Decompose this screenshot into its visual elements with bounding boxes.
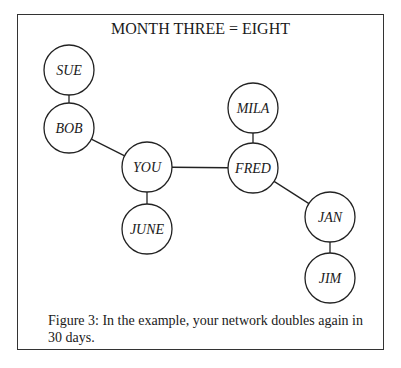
edge-bob-you xyxy=(91,139,124,156)
node-mila: MILA xyxy=(228,83,278,133)
node-label: YOU xyxy=(133,160,162,175)
edge-fred-jan xyxy=(274,181,309,203)
node-label: BOB xyxy=(55,121,83,136)
node-label: JAN xyxy=(318,210,343,225)
node-jim: JIM xyxy=(305,253,355,303)
node-label: JIM xyxy=(319,271,343,286)
node-jan: JAN xyxy=(305,192,355,242)
node-sue: SUE xyxy=(44,45,94,95)
node-label: SUE xyxy=(56,63,82,78)
node-label: JUNE xyxy=(130,222,165,237)
node-fred: FRED xyxy=(228,143,278,193)
edge-you-fred xyxy=(172,167,228,168)
figure-caption: Figure 3: In the example, your network d… xyxy=(48,312,368,346)
node-bob: BOB xyxy=(44,103,94,153)
node-label: FRED xyxy=(234,161,271,176)
nodes: SUEBOBYOUJUNEMILAFREDJANJIM xyxy=(44,45,355,303)
node-june: JUNE xyxy=(122,204,172,254)
edges xyxy=(69,95,330,253)
node-you: YOU xyxy=(122,142,172,192)
node-label: MILA xyxy=(236,101,270,116)
